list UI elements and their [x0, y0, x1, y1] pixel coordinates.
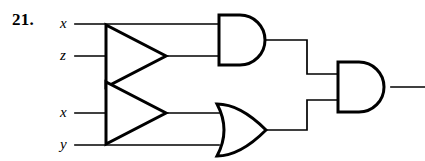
or-gate-bottom	[217, 104, 266, 156]
and-gate-output	[338, 62, 384, 112]
circuit-schematic-svg	[0, 0, 425, 161]
buffer-triangle-top-gate	[106, 25, 166, 87]
wire-or-to-output-gate	[266, 100, 338, 130]
logic-circuit-figure: 21. x z x y	[0, 0, 425, 161]
buffer-triangle-bottom-gate	[106, 82, 166, 144]
and-gate-top	[219, 15, 265, 65]
wire-and-top-to-output-gate	[266, 40, 338, 74]
